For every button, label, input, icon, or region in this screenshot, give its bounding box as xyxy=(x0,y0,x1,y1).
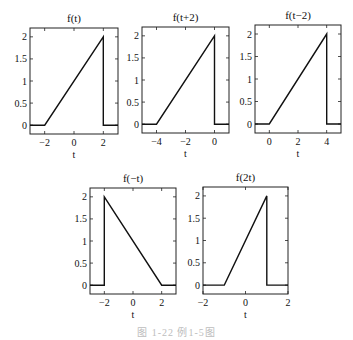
plot-title: f(2t) xyxy=(236,171,256,184)
x-axis-label: t xyxy=(297,148,300,159)
y-tick-label: 0.5 xyxy=(15,98,28,109)
plot-title: f(t) xyxy=(67,12,81,25)
y-tick-label: 1.5 xyxy=(75,213,88,224)
subplot-2: f(t+2)00.511.52−4−20t xyxy=(127,11,230,159)
y-tick-label: 0 xyxy=(82,280,87,291)
subplot-1: f(t)00.511.52−202t xyxy=(15,12,119,160)
y-tick-label: 0 xyxy=(195,280,200,291)
x-tick-label: −4 xyxy=(151,136,162,147)
y-tick-label: 0.5 xyxy=(75,258,88,269)
y-tick-label: 0.5 xyxy=(127,97,140,108)
y-tick-label: 1.5 xyxy=(127,52,140,63)
y-tick-label: 0.5 xyxy=(240,96,253,107)
x-tick-label: −2 xyxy=(99,297,110,308)
y-tick-label: 0 xyxy=(247,119,252,130)
plot-title: f(−t) xyxy=(123,172,144,185)
figure-caption: 图 1-22 例1-5图 xyxy=(0,324,353,339)
y-tick-label: 1.5 xyxy=(188,213,201,224)
x-axis-label: t xyxy=(132,309,135,320)
x-tick-label: 2 xyxy=(296,136,301,147)
y-tick-label: 1 xyxy=(195,235,200,246)
subplot-3: f(t−2)00.511.52024t xyxy=(240,9,342,159)
x-tick-label: 2 xyxy=(159,297,164,308)
y-tick-label: 2 xyxy=(247,29,252,40)
x-tick-label: 4 xyxy=(324,136,329,147)
signal-line xyxy=(255,34,341,124)
signal-line xyxy=(142,36,229,124)
x-tick-label: 0 xyxy=(212,136,217,147)
subplot-4: f(−t)00.511.52−202t xyxy=(75,172,177,320)
y-tick-label: 1 xyxy=(22,76,27,87)
signal-line xyxy=(203,196,288,285)
x-tick-label: 0 xyxy=(243,297,248,308)
x-axis-label: t xyxy=(244,309,247,320)
figure-canvas: f(t)00.511.52−202tf(t+2)00.511.52−4−20tf… xyxy=(0,0,353,340)
y-tick-label: 2 xyxy=(195,190,200,201)
x-axis-label: t xyxy=(184,148,187,159)
x-tick-label: 0 xyxy=(131,297,136,308)
y-tick-label: 0 xyxy=(22,120,27,131)
y-tick-label: 2 xyxy=(134,30,139,41)
subplot-5: f(2t)00.511.52−202t xyxy=(188,171,291,320)
x-tick-label: −2 xyxy=(198,297,209,308)
y-tick-label: 1 xyxy=(134,75,139,86)
plot-title: f(t+2) xyxy=(173,11,199,24)
y-tick-label: 1.5 xyxy=(240,51,253,62)
signal-line xyxy=(90,197,176,285)
y-tick-label: 0.5 xyxy=(188,257,201,268)
x-tick-label: −2 xyxy=(180,136,191,147)
x-axis-label: t xyxy=(73,149,76,160)
x-tick-label: −2 xyxy=(39,137,50,148)
y-tick-label: 1 xyxy=(82,236,87,247)
signal-line xyxy=(30,37,118,125)
x-tick-label: 0 xyxy=(267,136,272,147)
x-tick-label: 2 xyxy=(286,297,291,308)
y-tick-label: 1 xyxy=(247,74,252,85)
y-tick-label: 2 xyxy=(22,31,27,42)
x-tick-label: 0 xyxy=(72,137,77,148)
x-tick-label: 2 xyxy=(101,137,106,148)
y-tick-label: 2 xyxy=(82,191,87,202)
plot-title: f(t−2) xyxy=(285,9,311,22)
y-tick-label: 0 xyxy=(134,119,139,130)
y-tick-label: 1.5 xyxy=(15,53,28,64)
